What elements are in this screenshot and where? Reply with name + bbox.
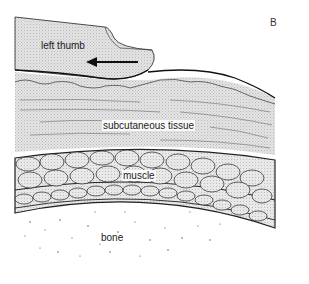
label-left-thumb: left thumb [40, 40, 86, 51]
label-bone: bone [100, 232, 124, 243]
label-subcutaneous-tissue: subcutaneous tissue [102, 120, 195, 131]
subcutaneous-tissue-region [15, 72, 275, 155]
panel-letter: B [270, 17, 277, 28]
label-muscle: muscle [122, 170, 156, 181]
